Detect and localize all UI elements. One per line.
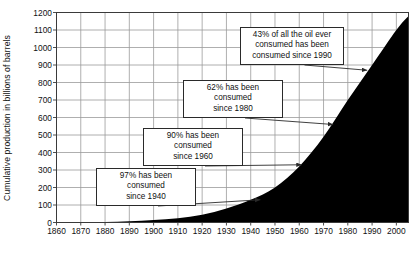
oil-production-chart: Cumulative production in billions of bar… [0, 0, 416, 254]
annotation-since-1990: 43% of all the oil ever consumed has bee… [240, 27, 344, 65]
plot-canvas [0, 0, 416, 254]
annotation-since-1940: 97% has been consumed since 1940 [96, 168, 196, 206]
annotation-since-1980: 62% has been consumed since 1980 [183, 80, 283, 118]
annotation-since-1960: 90% has been consumed since 1960 [143, 128, 243, 166]
leader-line-since-1990 [304, 65, 367, 70]
leader-line-since-1980 [245, 118, 333, 125]
